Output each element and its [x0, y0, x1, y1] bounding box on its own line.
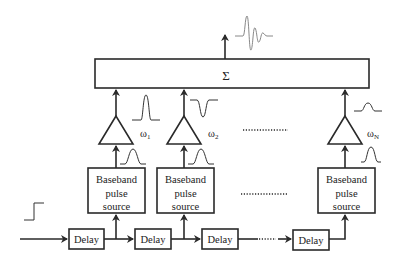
branch-1: ω1 Baseband pulse source: [88, 90, 160, 239]
baseband-pulse-wave: [361, 147, 381, 162]
modulated-pulse-wave: [190, 100, 218, 117]
carrier-label-1: ω1: [140, 128, 151, 141]
source-label-line: pulse: [335, 188, 358, 199]
source-label-line: Baseband: [96, 174, 138, 185]
source-label-line: pulse: [174, 188, 197, 199]
branch-2: ω2 Baseband pulse source: [157, 90, 219, 239]
amplifier-triangle: [328, 116, 362, 144]
baseband-pulse-wave: [120, 149, 146, 164]
branch-n: ωN Baseband pulse source: [318, 90, 382, 239]
output-waveform: [235, 16, 273, 50]
input-step-wave: [24, 203, 44, 220]
amplifier-triangle: [167, 116, 201, 144]
source-label-line: source: [333, 201, 361, 212]
source-label-line: source: [103, 201, 131, 212]
pulse-synthesis-diagram: Σ ω1 Baseband pulse source ω2 Baseband p…: [0, 0, 400, 264]
delay-label: Delay: [74, 234, 100, 245]
summer-symbol: Σ: [222, 68, 230, 83]
baseband-pulse-wave: [188, 149, 214, 164]
delay-label: Delay: [207, 234, 233, 245]
source-label-line: source: [172, 201, 200, 212]
modulated-pulse-wave: [132, 95, 160, 120]
tap-to-source-arrow: [329, 215, 345, 239]
source-label-line: Baseband: [326, 174, 368, 185]
modulated-pulse-wave: [354, 103, 382, 111]
carrier-label-2: ω2: [208, 128, 219, 141]
source-label-line: pulse: [105, 188, 128, 199]
summer-box: [95, 59, 369, 88]
amplifier-triangle: [99, 116, 133, 144]
source-label-line: Baseband: [165, 174, 207, 185]
carrier-label-n: ωN: [367, 128, 379, 141]
delay-label: Delay: [140, 234, 166, 245]
delay-label: Delay: [298, 235, 324, 246]
